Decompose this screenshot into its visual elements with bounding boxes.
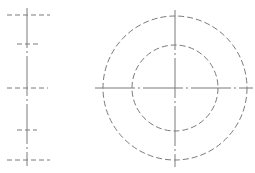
technical-drawing-canvas — [0, 0, 255, 173]
front-view — [95, 10, 253, 167]
side-view-hidden-lines — [7, 15, 50, 160]
